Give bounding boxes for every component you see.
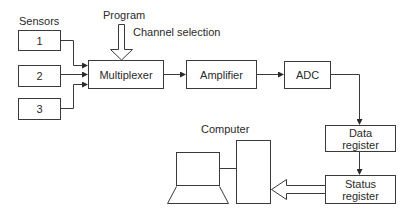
sensors-label: Sensors (19, 15, 59, 27)
sensor-3-label: 3 (18, 98, 61, 120)
status-register-line1: Status (345, 178, 376, 190)
sensor-1-label: 1 (18, 30, 61, 51)
data-register-line1: Data (349, 127, 372, 139)
computer-label: Computer (201, 123, 249, 135)
sensor-2-label: 2 (18, 65, 61, 87)
data-register-line2: register (342, 139, 379, 151)
sensor-3-line (61, 85, 88, 109)
data-register-label: Data register (325, 125, 396, 152)
adc-to-data-line (331, 75, 360, 125)
multiplexer-label: Multiplexer (88, 60, 164, 89)
amplifier-label: Amplifier (186, 60, 257, 89)
program-label: Program (103, 9, 145, 21)
computer-tower (237, 141, 271, 204)
sensor-1-line (61, 41, 88, 66)
program-arrow (111, 25, 133, 61)
status-to-computer-arrow (272, 180, 326, 200)
laptop-screen (177, 153, 220, 186)
status-register-label: Status register (325, 175, 396, 204)
adc-label: ADC (284, 61, 331, 89)
channel-selection-label: Channel selection (133, 26, 220, 38)
laptop-base (168, 187, 229, 204)
status-register-line2: register (342, 190, 379, 202)
